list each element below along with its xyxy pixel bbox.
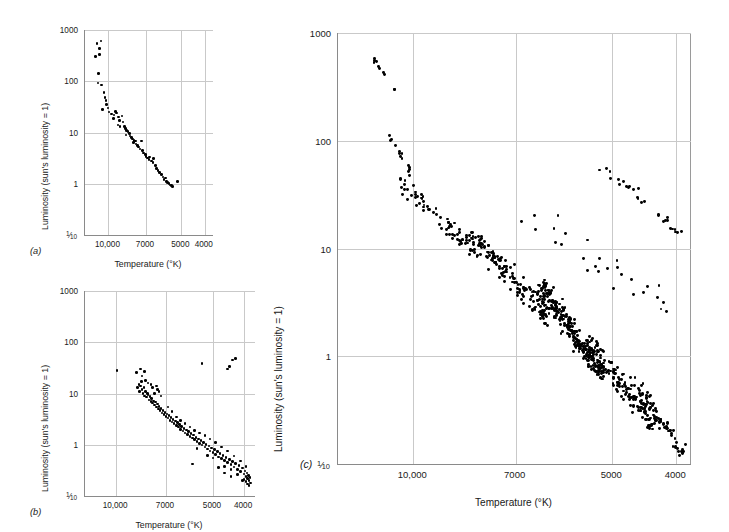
data-point (476, 254, 479, 257)
data-point (388, 134, 391, 137)
data-point (483, 240, 486, 243)
data-point (577, 343, 580, 346)
data-point (476, 255, 479, 258)
data-point (555, 307, 558, 310)
data-point (523, 287, 526, 290)
data-point (145, 155, 148, 158)
data-point (644, 412, 647, 415)
data-point (491, 259, 494, 262)
data-point (498, 267, 501, 270)
data-point (171, 185, 174, 188)
data-point (641, 416, 644, 419)
data-point (141, 149, 144, 152)
data-point (480, 237, 483, 240)
data-point (144, 390, 147, 393)
data-point (612, 371, 615, 374)
data-point (609, 361, 612, 364)
data-point (445, 228, 448, 231)
data-point (599, 367, 602, 370)
data-point (513, 263, 516, 266)
data-point (643, 200, 646, 203)
data-point (560, 243, 563, 246)
data-point (670, 432, 673, 435)
data-point (150, 160, 153, 163)
data-point (578, 350, 581, 353)
data-point (373, 57, 376, 60)
data-point (572, 350, 575, 353)
data-point (155, 406, 158, 409)
data-point (562, 308, 565, 311)
data-point (638, 389, 641, 392)
data-point (159, 409, 162, 412)
data-point (470, 231, 473, 234)
data-point (649, 394, 652, 397)
data-point (520, 298, 523, 301)
data-point (421, 197, 424, 200)
data-point (597, 371, 600, 374)
data-point (105, 99, 108, 102)
data-point (636, 196, 639, 199)
data-point (501, 267, 504, 270)
data-point (639, 400, 642, 403)
data-point (447, 227, 450, 230)
data-point (164, 411, 167, 414)
data-point (578, 347, 581, 350)
data-point (124, 127, 127, 130)
data-point (632, 398, 635, 401)
data-point (599, 354, 602, 357)
data-point (562, 314, 565, 317)
data-point (239, 460, 242, 463)
data-point (517, 283, 520, 286)
data-point (147, 393, 150, 396)
data-point (644, 418, 647, 421)
data-point (537, 290, 540, 293)
gridline-vertical (108, 30, 109, 235)
data-point (628, 393, 631, 396)
data-point (447, 221, 450, 224)
data-point (394, 144, 397, 147)
data-point (212, 451, 215, 454)
gridline-horizontal (338, 33, 691, 34)
data-point (589, 352, 592, 355)
data-point (152, 157, 155, 160)
data-point (658, 421, 661, 424)
data-point (561, 298, 564, 301)
data-point (577, 345, 580, 348)
data-point (582, 348, 585, 351)
data-point (560, 316, 563, 319)
data-point (553, 309, 556, 312)
data-point (584, 345, 587, 348)
data-point (170, 184, 173, 187)
data-point (519, 283, 522, 286)
data-point (543, 283, 546, 286)
data-point (516, 291, 519, 294)
data-point (492, 250, 495, 253)
data-point (563, 324, 566, 327)
data-point (583, 342, 586, 345)
data-point (672, 445, 675, 448)
gridline-horizontal (85, 30, 213, 31)
data-point (632, 395, 635, 398)
gridline-vertical (205, 30, 206, 235)
data-point (533, 214, 536, 217)
data-point (587, 363, 590, 366)
data-point (570, 322, 573, 325)
data-point (575, 338, 578, 341)
data-point (479, 245, 482, 248)
data-point (223, 465, 226, 468)
data-point (529, 298, 532, 301)
x-axis-tick-label: 7000 (136, 240, 154, 249)
data-point (634, 376, 637, 379)
gridline-horizontal (338, 356, 691, 357)
data-point (554, 303, 557, 306)
data-point (160, 395, 163, 398)
data-point (606, 267, 609, 270)
data-point (155, 385, 158, 388)
data-point (536, 299, 539, 302)
data-point (153, 404, 156, 407)
data-point (588, 356, 591, 359)
data-point (643, 407, 646, 410)
data-point (638, 392, 641, 395)
data-point (628, 185, 631, 188)
data-point (546, 292, 549, 295)
